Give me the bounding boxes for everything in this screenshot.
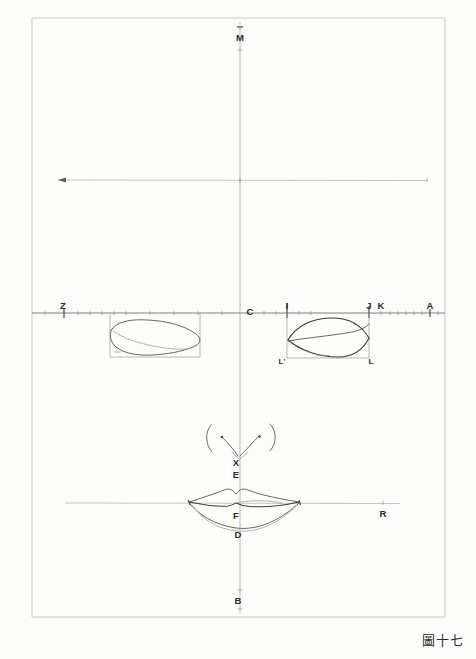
nose-group <box>207 424 276 459</box>
nose-left-philtrum-curve <box>222 437 238 456</box>
label-point-X: X <box>233 457 240 468</box>
right-lens-lower-arc <box>288 338 369 357</box>
nose-right-tip-faint <box>240 452 248 459</box>
upper-lip-faint-arc <box>236 501 282 503</box>
label-point-E: E <box>233 469 239 480</box>
right-construction-group <box>287 313 369 358</box>
nose-right-wing-curve <box>270 424 275 451</box>
label-point-A: A <box>427 300 434 311</box>
mid-horizontal-construction-line <box>58 178 428 183</box>
figure-canvas: M Z C I J K A L' L X E F D B R <box>0 0 476 659</box>
label-point-B: B <box>235 595 242 606</box>
point-labels: M Z C I J K A L' L X E F D B R <box>60 32 433 606</box>
upper-lip-outer-contour <box>189 489 299 502</box>
label-point-K: K <box>378 300 385 311</box>
nose-left-nostril-dot <box>221 436 224 439</box>
mouth-group <box>188 489 301 531</box>
right-lens-upper-arc <box>288 318 369 340</box>
mid-line-left-arrowhead <box>58 178 66 183</box>
nose-left-wing-curve <box>207 425 212 452</box>
label-point-D: D <box>235 529 242 540</box>
left-construction-group <box>110 313 200 357</box>
mouth-right-corner-tick <box>299 500 301 505</box>
figure-caption: 圖十七 <box>422 630 464 649</box>
vertical-center-axis <box>237 22 243 613</box>
label-point-Z: Z <box>60 300 66 311</box>
nose-right-nostril-dot <box>258 435 261 438</box>
label-point-L: L <box>369 357 374 366</box>
label-point-J: J <box>366 300 371 311</box>
drawing-sheet: M Z C I J K A L' L X E F D B R 圖十七 <box>0 0 476 659</box>
label-point-L-prime: L' <box>279 357 286 366</box>
label-point-M: M <box>236 32 244 43</box>
right-lens-base-tick <box>316 355 330 356</box>
lip-parting-line <box>189 502 299 507</box>
label-point-C: C <box>247 306 254 317</box>
lower-axis-line <box>65 503 400 504</box>
left-lens-inner-curve <box>113 331 197 349</box>
sheet-frame <box>32 18 445 617</box>
lower-lip-outer-contour <box>189 503 299 528</box>
label-point-F: F <box>233 510 239 521</box>
mid-horizontal-line <box>58 180 428 181</box>
nose-right-philtrum-curve <box>240 436 259 456</box>
label-point-R: R <box>380 508 387 519</box>
label-point-I: I <box>286 300 289 311</box>
